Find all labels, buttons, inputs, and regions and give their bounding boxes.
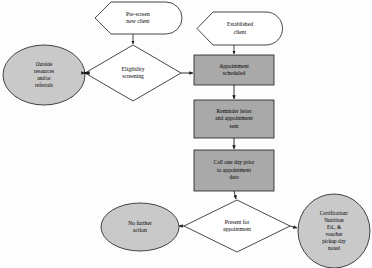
flowchart-svg — [0, 0, 372, 268]
node-no-further-action — [101, 203, 179, 251]
node-eligibility-screening — [85, 45, 181, 101]
node-call-one-day-prior — [194, 150, 274, 191]
node-certification-noted — [298, 194, 370, 268]
node-outside-resources — [3, 45, 85, 105]
flowchart-canvas: Pre-screen new client Established client… — [0, 0, 372, 268]
node-present-for-appointment — [184, 200, 290, 252]
node-reminder-letter-sent — [194, 100, 274, 138]
node-pre-screen-new-client — [95, 2, 182, 34]
edge-present-to-certification — [290, 226, 297, 228]
edge-call-to-present — [234, 191, 236, 199]
node-established-client — [197, 12, 283, 45]
node-appointment-scheduled — [194, 55, 274, 85]
